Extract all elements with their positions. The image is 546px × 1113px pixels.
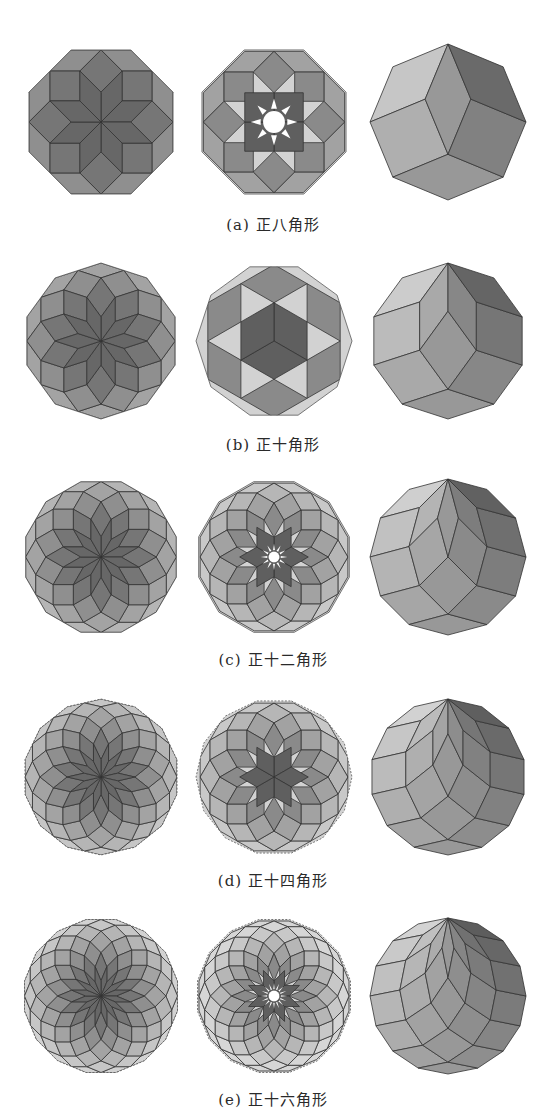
zonohedron-view: [370, 44, 526, 200]
star-tile: [229, 1026, 244, 1041]
star-tile: [301, 730, 321, 750]
star-tiling: [198, 920, 351, 1073]
rhombus-tile: [129, 585, 149, 605]
star-tile: [227, 584, 247, 604]
caption-title: 正十二角形: [248, 651, 328, 669]
rosette-tiling: [27, 263, 175, 419]
rhombus-tile: [53, 509, 73, 529]
rhombus-tile: [53, 585, 73, 605]
caption-label: (e): [218, 1091, 242, 1109]
caption-title: 正十六角形: [248, 1091, 328, 1109]
caption-label: (d): [218, 872, 242, 890]
zonohedron-view: [374, 263, 522, 419]
star-tile: [227, 804, 247, 824]
rhombus-tile: [55, 950, 70, 965]
figure-row-b: [27, 263, 522, 419]
zonohedron-view: [370, 918, 526, 1074]
rhombus-tile: [132, 950, 147, 965]
star-tile: [227, 510, 247, 530]
figure-row-d: [25, 699, 524, 855]
zonotope-face: [370, 990, 406, 1026]
rhombus-tile: [122, 71, 152, 101]
zonohedron-view: [370, 479, 526, 635]
star-tiling: [196, 701, 352, 853]
caption-d: (d)正十四角形: [0, 872, 546, 890]
rhombus-tile: [55, 1027, 70, 1042]
caption-title: 正十四角形: [248, 872, 328, 890]
caption-label: (c): [218, 651, 241, 669]
caption-b: (b)正十角形: [0, 436, 546, 454]
caption-c: (c)正十二角形: [0, 651, 546, 669]
caption-a: (a)正八角形: [0, 216, 546, 234]
figure-row-c: [26, 479, 526, 635]
star-tile: [304, 951, 319, 966]
caption-label: (b): [226, 436, 250, 454]
figure-row-a: [29, 44, 526, 200]
rhombus-tile: [50, 143, 80, 173]
sun-star-icon: [261, 983, 288, 1010]
zonohedron-view: [372, 699, 524, 855]
sun-star-icon: [251, 99, 298, 146]
rosette-tiling: [25, 699, 177, 855]
rosette-tiling: [26, 482, 177, 633]
star-tile: [229, 951, 244, 966]
rosette-tiling: [25, 920, 178, 1073]
caption-title: 正十角形: [256, 436, 320, 454]
caption-title: 正八角形: [256, 216, 320, 234]
rhombus-tile: [129, 509, 149, 529]
star-tile: [227, 730, 247, 750]
figure-row-e: [25, 918, 527, 1074]
star-tiling: [199, 482, 350, 633]
zonotope-face: [490, 990, 526, 1026]
star-tiling: [202, 50, 346, 194]
caption-e: (e)正十六角形: [0, 1091, 546, 1109]
rosette-tiling: [29, 50, 173, 194]
star-tile: [301, 804, 321, 824]
caption-label: (a): [226, 216, 250, 234]
star-tiling: [196, 265, 352, 418]
figure-canvas: [0, 0, 546, 1113]
rhombus-tile: [132, 1027, 147, 1042]
rhombus-tile: [122, 143, 152, 173]
star-tile: [301, 510, 321, 530]
star-tile: [304, 1026, 319, 1041]
star-tile: [301, 584, 321, 604]
rhombus-tile: [50, 71, 80, 101]
